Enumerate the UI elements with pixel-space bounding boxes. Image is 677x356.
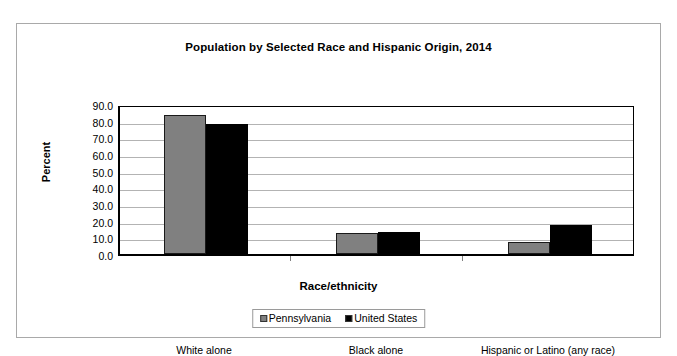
y-axis-tick-label: 80.0 (67, 117, 113, 129)
bar-pennsylvania (336, 233, 378, 254)
chart-frame: Population by Selected Race and Hispanic… (16, 23, 661, 338)
chart-legend: PennsylvaniaUnited States (252, 309, 426, 328)
y-axis-tick-label: 50.0 (67, 167, 113, 179)
y-axis-tick-label: 10.0 (67, 233, 113, 245)
plot-area (118, 106, 634, 256)
x-axis-tick-label: White alone (176, 344, 231, 356)
bar-united-states (206, 124, 248, 254)
gray-square-swatch (260, 315, 267, 322)
y-axis-tick-label: 70.0 (67, 133, 113, 145)
y-axis-tick-label: 20.0 (67, 217, 113, 229)
y-axis-tick-label: 60.0 (67, 150, 113, 162)
y-axis-tick-label: 40.0 (67, 183, 113, 195)
bar-pennsylvania (164, 115, 206, 254)
x-axis-tick-mark (290, 256, 291, 261)
y-axis-tick-labels: 90.080.070.060.050.040.030.020.010.00.0 (65, 106, 113, 256)
bar-united-states (550, 225, 592, 254)
y-axis-title: Percent (40, 127, 52, 197)
x-axis-tick-label: Black alone (349, 344, 403, 356)
legend-item-label: Pennsylvania (269, 312, 331, 324)
plot-area-wrapper: White aloneBlack aloneHispanic or Latino… (118, 106, 634, 256)
bar-united-states (378, 232, 420, 255)
y-axis-tick-label: 90.0 (67, 100, 113, 112)
y-axis-tick-label: 30.0 (67, 200, 113, 212)
x-axis-tick-mark (462, 256, 463, 261)
chart-title: Population by Selected Race and Hispanic… (17, 41, 660, 53)
y-axis-tick-label: 0.0 (67, 250, 113, 262)
black-square-swatch (345, 315, 352, 322)
legend-item[interactable]: United States (345, 312, 417, 324)
legend-item-label: United States (354, 312, 417, 324)
bar-pennsylvania (508, 242, 550, 254)
legend-item[interactable]: Pennsylvania (260, 312, 331, 324)
x-axis-tick-label: Hispanic or Latino (any race) (481, 344, 615, 356)
x-axis-title: Race/ethnicity (17, 280, 660, 292)
